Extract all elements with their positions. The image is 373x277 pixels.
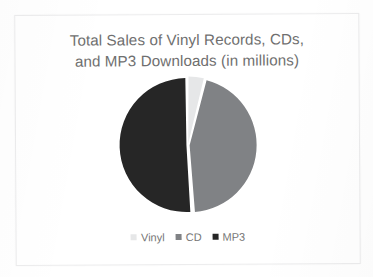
pie-slice-mp3[interactable] — [119, 78, 190, 212]
pie-chart — [102, 69, 275, 220]
legend-entry-cd[interactable]: CD — [176, 231, 202, 243]
chart-title: Total Sales of Vinyl Records, CDs, and M… — [15, 28, 358, 72]
legend-entry-mp3[interactable]: MP3 — [213, 231, 246, 243]
pie-chart-plot-area — [102, 69, 275, 220]
pie-slice-cd[interactable] — [189, 80, 257, 212]
legend-entry-vinyl[interactable]: Vinyl — [131, 231, 165, 243]
chart-legend: Vinyl CD MP3 — [17, 230, 360, 244]
chart-title-line-1: Total Sales of Vinyl Records, CDs, — [15, 28, 358, 51]
square-marker-vinyl — [131, 234, 137, 240]
legend-label-mp3: MP3 — [223, 231, 246, 243]
presentation-slide: Total Sales of Vinyl Records, CDs, and M… — [14, 13, 361, 266]
slide-photograph: Total Sales of Vinyl Records, CDs, and M… — [0, 0, 373, 277]
square-marker-mp3 — [213, 234, 219, 240]
pie-slices — [119, 76, 257, 212]
chart-title-line-2: and MP3 Downloads (in millions) — [15, 49, 358, 72]
legend-label-vinyl: Vinyl — [141, 231, 165, 243]
square-marker-cd — [176, 234, 182, 240]
legend-label-cd: CD — [186, 231, 202, 243]
